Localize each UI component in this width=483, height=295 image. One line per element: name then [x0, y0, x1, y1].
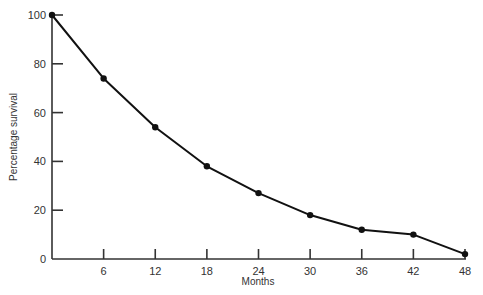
x-tick-label: 36 — [356, 265, 368, 277]
data-point-marker — [100, 75, 106, 81]
x-tick-label: 18 — [201, 265, 213, 277]
x-ticks: 612182430364248 — [101, 249, 472, 277]
y-tick-label: 0 — [40, 253, 46, 265]
y-tick-label: 40 — [34, 155, 46, 167]
y-tick-label: 100 — [28, 9, 46, 21]
data-point-marker — [410, 231, 416, 237]
data-series — [49, 12, 468, 258]
y-tick-label: 60 — [34, 107, 46, 119]
data-point-marker — [255, 190, 261, 196]
axes — [52, 14, 466, 259]
x-axis-label: Months — [242, 276, 275, 287]
y-tick-label: 20 — [34, 204, 46, 216]
x-tick-label: 6 — [101, 265, 107, 277]
x-tick-label: 12 — [149, 265, 161, 277]
data-point-marker — [49, 12, 55, 18]
data-point-marker — [152, 124, 158, 130]
survival-chart: 020406080100 612182430364248 Months Perc… — [0, 0, 483, 295]
data-point-marker — [462, 251, 468, 257]
y-ticks: 020406080100 — [28, 9, 63, 265]
data-point-marker — [359, 227, 365, 233]
x-tick-label: 48 — [459, 265, 471, 277]
y-axis-label: Percentage survival — [8, 93, 19, 181]
x-tick-label: 42 — [407, 265, 419, 277]
y-tick-label: 80 — [34, 58, 46, 70]
x-tick-label: 30 — [304, 265, 316, 277]
data-point-marker — [204, 163, 210, 169]
data-point-marker — [307, 212, 313, 218]
survival-line — [52, 15, 465, 254]
